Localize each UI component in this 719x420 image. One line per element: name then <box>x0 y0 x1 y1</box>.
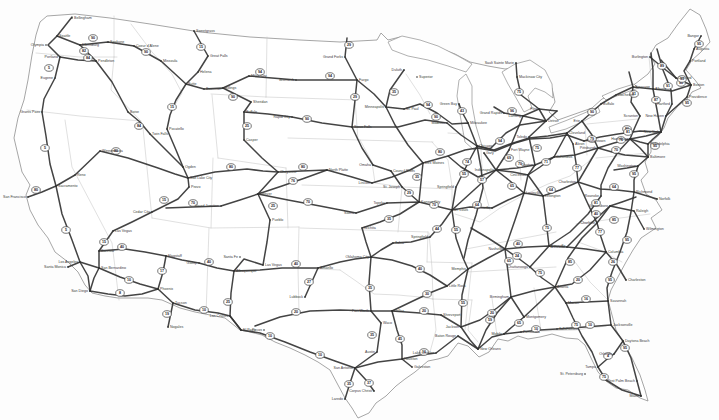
city-label: Roanoke <box>585 194 599 198</box>
city-label: Albuquerque <box>236 269 256 273</box>
city-label: Albany <box>655 87 666 91</box>
city-dot <box>527 174 529 176</box>
city-grand-rapids: Grand Rapids <box>480 111 505 115</box>
city-st-petersburg: St. Petersburg <box>560 372 586 376</box>
city-wichita: Wichita <box>361 226 376 230</box>
city-las-cruces: Las Cruces <box>210 314 231 318</box>
interstate-shield-number: 75 <box>545 226 549 230</box>
interstate-shield-number: 80 <box>301 165 305 169</box>
city-columbus: Columbus <box>553 155 572 159</box>
city-label: Birmingham <box>490 295 509 299</box>
interstate-shield-number: 57 <box>480 178 484 182</box>
city-dot <box>89 290 91 292</box>
city-casper: Casper <box>243 138 258 142</box>
city-label: Waco <box>383 321 392 325</box>
city-dot <box>457 335 459 337</box>
interstate-shield-80: 80 <box>436 149 445 156</box>
city-dot <box>390 170 392 172</box>
interstate-shield-55: 55 <box>459 300 468 307</box>
interstate-shield-number: 89 <box>660 64 664 68</box>
city-st-paul: St. Paul <box>403 107 419 111</box>
interstate-shield-number: 90 <box>305 117 309 121</box>
city-dot <box>503 333 505 335</box>
city-sault-sainte-marie: Sault Sainte Marie <box>485 61 517 65</box>
interstate-shield-number: 80 <box>229 165 233 169</box>
city-label: Philadelphia <box>650 142 670 146</box>
city-sacramento: Sacramento <box>55 184 77 188</box>
interstate-shield-number: 27 <box>307 280 311 284</box>
city-label: Chicago <box>479 144 492 148</box>
city-columbia: Columbia <box>605 250 623 254</box>
interstate-shield-75: 75 <box>543 225 552 232</box>
city-label: Lubbock <box>289 295 303 299</box>
city-dot <box>98 267 100 269</box>
city-grand-forks: Grand Forks <box>323 55 346 59</box>
city-label: Las Cruces <box>210 314 228 318</box>
interstate-shield-number: 94 <box>328 74 332 78</box>
city-dot <box>522 115 524 117</box>
city-dot <box>477 348 479 350</box>
interstate-shield-77: 77 <box>596 229 605 236</box>
interstate-shield-25: 25 <box>224 299 233 306</box>
city-label: Rochester <box>618 93 635 97</box>
interstate-shield-74: 74 <box>463 159 472 166</box>
city-dot <box>538 108 540 110</box>
city-dot <box>597 366 599 368</box>
city-pensacola: Pensacola <box>520 330 540 334</box>
interstate-shield-number: 10 <box>588 323 592 327</box>
city-label: Pittsburgh <box>580 146 596 150</box>
city-dot <box>572 143 574 145</box>
city-albuquerque: Albuquerque <box>233 269 256 273</box>
interstate-shield-64: 64 <box>610 184 619 191</box>
interstate-shield-40: 40 <box>514 241 523 248</box>
city-dot <box>187 177 189 179</box>
city-dot <box>239 256 241 258</box>
interstate-shield-number: 29 <box>353 95 357 99</box>
city-dot <box>240 329 242 331</box>
city-label: Jackson <box>446 325 459 329</box>
city-washington: Washington <box>617 164 639 168</box>
interstate-shield-95: 95 <box>630 171 639 178</box>
city-label: St. Petersburg <box>560 372 583 376</box>
interstate-shield-number: 10 <box>202 308 206 312</box>
city-dot <box>391 310 393 312</box>
city-helena: Helena <box>197 70 211 74</box>
interstate-shield-70: 70 <box>612 147 621 154</box>
city-burlington: Burlington <box>632 55 651 59</box>
city-dot <box>295 79 297 81</box>
city-dot <box>451 209 453 211</box>
city-label: Richmond <box>636 190 652 194</box>
city-dot <box>165 255 167 257</box>
city-dot <box>520 331 522 333</box>
city-label: Cleveland <box>569 131 585 135</box>
city-sioux-falls: Sioux Falls <box>351 125 372 129</box>
city-label: Erie <box>574 119 580 123</box>
city-montgomery: Montgomery <box>523 315 546 319</box>
city-dot <box>577 181 579 183</box>
city-dot <box>67 266 69 268</box>
city-label: Pensacola <box>523 330 540 334</box>
city-raleigh: Raleigh <box>633 209 648 213</box>
city-dot <box>385 106 387 108</box>
city-label: Great Falls <box>210 54 228 58</box>
interstate-shield-90: 90 <box>303 116 312 123</box>
city-buffalo: Buffalo <box>243 110 257 114</box>
interstate-shield-number: 85 <box>612 218 616 222</box>
interstate-shield-35: 35 <box>413 174 422 181</box>
interstate-shield-number: 35 <box>347 382 351 386</box>
interstate-shield-number: 55 <box>454 228 458 232</box>
city-dot <box>354 367 356 369</box>
city-dot <box>435 352 437 354</box>
interstate-shield-number: 15 <box>162 198 166 202</box>
city-label: Nogales <box>170 325 183 329</box>
city-dot <box>392 242 394 244</box>
city-label: Orlando <box>599 352 612 356</box>
city-dot <box>54 77 56 79</box>
interstate-shield-number: 20 <box>294 310 298 314</box>
interstate-shield-19: 19 <box>163 311 172 318</box>
city-dot <box>643 228 645 230</box>
city-dot <box>74 174 76 176</box>
city-dot <box>160 60 162 62</box>
city-dot <box>203 88 205 90</box>
interstate-shield-10: 10 <box>266 333 275 340</box>
